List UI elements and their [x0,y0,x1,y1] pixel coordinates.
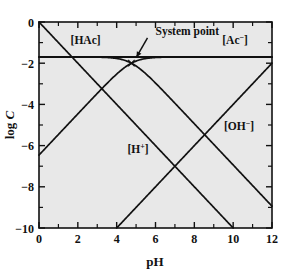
series-label-ac: [Ac−] [222,32,248,46]
x-tick-label: 6 [153,232,159,246]
series-label-oh: [OH−] [224,119,254,133]
y-tick-label: −6 [21,139,34,153]
x-axis-title: pH [146,254,163,269]
y-tick-label: 0 [28,16,34,30]
y-tick-label: −8 [21,180,34,194]
x-tick-label: 2 [75,232,81,246]
x-tick-label: 0 [36,232,42,246]
x-tick-label: 12 [266,232,278,246]
log-concentration-diagram: 0246810120−2−4−6−8−10 [HAc][Ac−][H+][OH−… [0,0,294,275]
x-tick-label: 8 [191,232,197,246]
series-label-hac: [HAc] [71,34,101,46]
x-tick-label: 4 [114,232,120,246]
y-tick-label: −4 [21,98,34,112]
x-tick-label: 10 [227,232,239,246]
chart-canvas: 0246810120−2−4−6−8−10 [HAc][Ac−][H+][OH−… [0,0,294,275]
series-label-h: [H+] [127,141,148,155]
y-tick-label: −10 [15,222,34,236]
y-axis-title: log C [2,110,17,139]
system-point-label: System point [156,25,220,38]
y-tick-label: −2 [21,57,34,71]
